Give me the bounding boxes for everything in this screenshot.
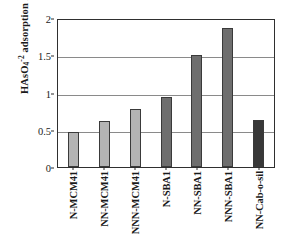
- x-category-label: NN-SBA1: [192, 171, 203, 215]
- bar-slot: [212, 20, 243, 167]
- bar-slot: [151, 20, 182, 167]
- y-tick-mark: [51, 168, 54, 169]
- x-tick-mark: [166, 167, 167, 170]
- bar: [99, 121, 110, 167]
- x-tick-mark: [104, 167, 105, 170]
- bar-slot: [89, 20, 120, 167]
- x-tick-mark: [258, 167, 259, 170]
- y-tick-mark: [51, 56, 54, 57]
- bar: [222, 28, 233, 167]
- bar: [161, 97, 172, 167]
- x-label-slot: NNN-SBA1: [213, 171, 244, 247]
- x-tick-mark: [227, 167, 228, 170]
- y-tick-mark: [51, 93, 54, 94]
- bar-slot: [120, 20, 151, 167]
- x-label-slot: N-SBA1: [150, 171, 181, 247]
- plot-area: [57, 19, 275, 168]
- x-category-label: NN-Cab-o-sil: [254, 171, 265, 229]
- x-category-label: NN-MCM41: [98, 171, 109, 227]
- x-tick-mark: [135, 167, 136, 170]
- bar-slot: [243, 20, 274, 167]
- bar: [130, 109, 141, 167]
- bar: [253, 120, 264, 167]
- x-category-label: NNN-MCM41: [129, 171, 140, 234]
- x-tick-mark: [73, 167, 74, 170]
- bar: [68, 132, 79, 167]
- bar-slot: [58, 20, 89, 167]
- x-category-label: NNN-SBA1: [223, 171, 234, 222]
- y-tick-mark: [51, 19, 54, 20]
- bar-series: [58, 20, 274, 167]
- x-axis-category-labels: N-MCM41NN-MCM41NNN-MCM41N-SBA1NN-SBA1NNN…: [57, 171, 275, 247]
- bar-chart-figure: HAsO4-2 adsorption / mmol g-1 00.511.52 …: [0, 0, 289, 248]
- x-label-slot: NNN-MCM41: [119, 171, 150, 247]
- x-tick-mark: [196, 167, 197, 170]
- x-category-label: N-SBA1: [160, 171, 171, 207]
- x-category-label: N-MCM41: [67, 171, 78, 219]
- y-axis-tick-labels: 00.511.52: [26, 19, 54, 168]
- y-tick-label: 0.5: [38, 125, 51, 136]
- x-label-slot: N-MCM41: [57, 171, 88, 247]
- y-tick-mark: [51, 130, 54, 131]
- x-label-slot: NN-Cab-o-sil: [244, 171, 275, 247]
- bar: [191, 55, 202, 167]
- x-label-slot: NN-MCM41: [88, 171, 119, 247]
- x-label-slot: NN-SBA1: [182, 171, 213, 247]
- bar-slot: [181, 20, 212, 167]
- y-tick-label: 1.5: [38, 51, 51, 62]
